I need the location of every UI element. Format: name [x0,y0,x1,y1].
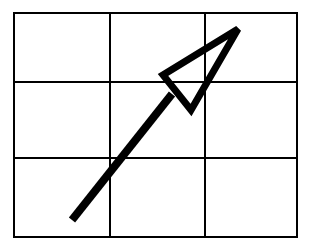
arrow [72,29,238,220]
arrow-head-icon [163,29,238,110]
grid [14,13,297,237]
diagram-canvas [0,0,316,251]
grid-arrow-diagram [0,0,316,251]
